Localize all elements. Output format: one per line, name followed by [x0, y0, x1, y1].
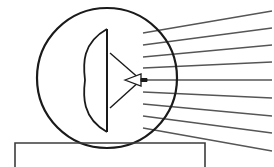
antenna-diagram-svg [0, 0, 274, 167]
diagram-canvas [0, 0, 274, 167]
feed-horn-waveguide-stub [141, 79, 147, 82]
